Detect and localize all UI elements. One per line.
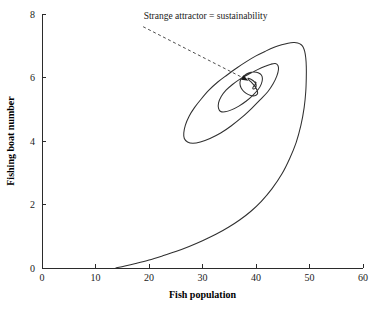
y-axis-title: Fishing boat number (5, 96, 16, 186)
x-axis-title: Fish population (169, 289, 236, 300)
x-tick-label: 60 (358, 272, 368, 283)
x-tick-label: 50 (305, 272, 315, 283)
y-tick-label: 8 (30, 9, 35, 20)
x-tick-label: 20 (144, 272, 154, 283)
x-tick-label: 10 (91, 272, 101, 283)
y-tick-label: 6 (30, 72, 35, 83)
chart-figure: 0102030405060 02468 Strange attractor = … (0, 0, 375, 311)
annotation-label: Strange attractor = sustainability (144, 11, 268, 21)
x-tick-label: 30 (198, 272, 208, 283)
phase-portrait-chart: 0102030405060 02468 Strange attractor = … (0, 0, 375, 311)
y-tick-label: 0 (30, 263, 35, 274)
y-tick-label: 2 (30, 199, 35, 210)
x-tick-label: 40 (251, 272, 261, 283)
x-tick-label: 0 (40, 272, 45, 283)
chart-background (0, 0, 375, 311)
y-tick-label: 4 (30, 136, 35, 147)
